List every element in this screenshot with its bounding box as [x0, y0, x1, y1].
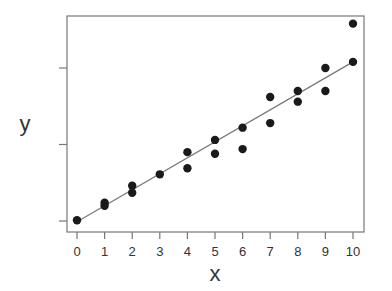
- data-point: [321, 87, 329, 95]
- x-tick-label: 0: [73, 244, 80, 259]
- y-axis-ticks: [59, 68, 67, 221]
- data-points: [73, 19, 357, 224]
- data-point: [156, 170, 164, 178]
- data-point: [73, 216, 81, 224]
- x-tick-label: 1: [101, 244, 108, 259]
- data-point: [294, 97, 302, 105]
- data-point: [294, 87, 302, 95]
- data-point: [211, 149, 219, 157]
- x-tick-label: 7: [267, 244, 274, 259]
- data-point: [211, 136, 219, 144]
- x-axis-ticks: [77, 232, 353, 239]
- x-tick-label: 10: [346, 244, 360, 259]
- x-axis-tick-labels: 012345678910: [73, 244, 360, 259]
- scatter-chart: 012345678910 x y: [0, 0, 392, 291]
- y-axis-title: y: [20, 111, 31, 136]
- plot-frame: [67, 16, 364, 232]
- data-point: [100, 202, 108, 210]
- data-point: [128, 188, 136, 196]
- x-axis-title: x: [210, 261, 221, 286]
- data-point: [183, 164, 191, 172]
- data-point: [321, 64, 329, 72]
- x-tick-label: 3: [156, 244, 163, 259]
- data-point: [238, 145, 246, 153]
- x-tick-label: 4: [184, 244, 191, 259]
- x-tick-label: 2: [129, 244, 136, 259]
- data-point: [266, 93, 274, 101]
- data-point: [266, 119, 274, 127]
- data-point: [349, 58, 357, 66]
- x-tick-label: 9: [322, 244, 329, 259]
- x-tick-label: 8: [294, 244, 301, 259]
- data-point: [183, 148, 191, 156]
- x-tick-label: 6: [239, 244, 246, 259]
- x-tick-label: 5: [211, 244, 218, 259]
- data-point: [349, 19, 357, 27]
- data-point: [238, 123, 246, 131]
